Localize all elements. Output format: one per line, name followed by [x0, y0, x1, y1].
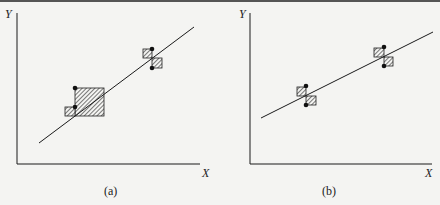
data-point [382, 64, 387, 69]
data-point [73, 105, 78, 110]
panel-a-x-label: X [202, 166, 209, 181]
data-point [382, 45, 387, 50]
residual-square-large [75, 88, 104, 116]
data-point [304, 84, 309, 89]
panel-b-y-label: Y [239, 7, 246, 22]
panel-a-caption: (a) [104, 184, 117, 199]
data-point [150, 66, 155, 71]
residual-square [374, 48, 384, 57]
panel-b [250, 13, 433, 164]
data-point [304, 103, 309, 108]
data-point [150, 47, 155, 52]
regression-line [261, 32, 433, 118]
panel-b-caption: (b) [322, 184, 336, 199]
figure-canvas [0, 0, 440, 205]
panel-a-y-label: Y [5, 7, 12, 22]
panel-b-x-label: X [425, 166, 432, 181]
regression-line [39, 27, 194, 143]
residual-square [297, 87, 306, 96]
data-point [73, 86, 78, 91]
panel-a [17, 13, 200, 164]
